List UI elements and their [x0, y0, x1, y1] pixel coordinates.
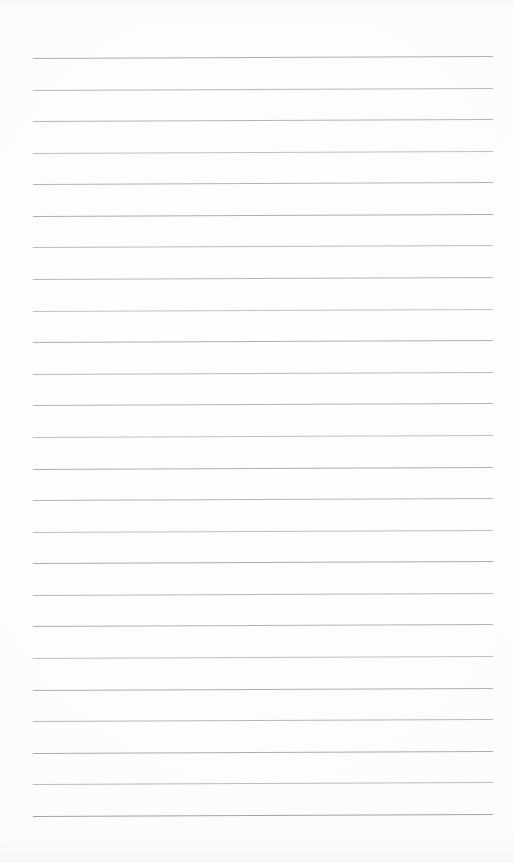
- ruled-line: [33, 782, 493, 785]
- ruled-line: [33, 530, 493, 533]
- ruled-line: [33, 656, 493, 659]
- ruled-line: [33, 719, 493, 722]
- ruled-line: [33, 309, 493, 312]
- ruled-line: [33, 498, 493, 501]
- ruled-line: [33, 751, 493, 754]
- ruled-lines-layer: [0, 0, 513, 862]
- ruled-line: [33, 372, 493, 375]
- ruled-line: [33, 688, 493, 691]
- ruled-line: [33, 56, 493, 59]
- ruled-line: [33, 151, 493, 154]
- ruled-line: [33, 435, 493, 438]
- notepad-page: [0, 0, 513, 862]
- ruled-line: [33, 214, 493, 217]
- ruled-line: [33, 88, 493, 91]
- ruled-line: [33, 624, 493, 627]
- ruled-line: [33, 340, 493, 343]
- ruled-line: [33, 403, 493, 406]
- ruled-line: [33, 277, 493, 280]
- ruled-line: [33, 182, 493, 185]
- ruled-line: [33, 245, 493, 248]
- ruled-line: [33, 119, 493, 122]
- ruled-line: [33, 814, 493, 817]
- ruled-line: [33, 467, 493, 470]
- ruled-line: [33, 561, 493, 564]
- ruled-line: [33, 593, 493, 596]
